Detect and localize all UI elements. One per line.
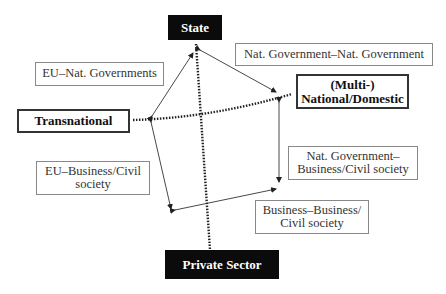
eu-nat-governments-label: EU–Nat. Governments [42,67,157,80]
nat-gov-nat-gov-label: Nat. Government–Nat. Government [244,48,424,61]
nat-gov-business-civil-box: Nat. Government– Business/Civil society [288,146,418,180]
business-business-label-line2: Civil society [280,217,344,230]
state-label: State [181,21,209,35]
diagram-canvas: State Private Sector Transnational (Mult… [0,0,446,294]
national-domestic-label-line2: National/Domestic [301,92,404,106]
business-business-box: Business–Business/ Civil society [255,200,369,234]
vertical-axis-dotted [196,44,210,250]
national-domestic-box: (Multi-) National/Domestic [296,74,409,109]
national-domestic-label-line1: (Multi-) [330,78,374,92]
private-sector-box: Private Sector [165,250,279,279]
state-box: State [168,15,222,40]
eu-business-civil-label-line2: society [75,178,110,191]
arrow-eu-business [151,122,171,209]
transnational-box: Transnational [17,109,130,133]
eu-business-civil-box: EU–Business/Civil society [36,161,150,195]
private-sector-label: Private Sector [182,258,261,272]
transnational-label: Transnational [35,114,113,128]
horizontal-axis-dotted [133,94,292,120]
nat-gov-nat-gov-box: Nat. Government–Nat. Government [235,43,433,66]
eu-nat-governments-box: EU–Nat. Governments [35,62,164,86]
nat-gov-business-civil-label-line2: Business/Civil society [297,163,408,176]
